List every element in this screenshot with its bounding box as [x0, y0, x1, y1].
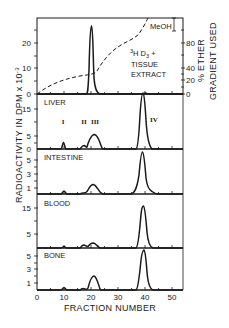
intestine-ytick-3: 3: [27, 170, 32, 179]
tissue-extract-curve: [37, 26, 183, 94]
peak-label-iii: III: [91, 118, 99, 126]
peak-label-iv: IV: [150, 116, 158, 124]
top-ytick-20: 20: [22, 39, 31, 48]
chart-figure: 0 10 20 0 20 40 80 5 15 0 5 3 1 15 5 5 3…: [0, 0, 229, 328]
top-y2tick-40: 40: [186, 64, 195, 73]
top-y2tick-0: 0: [186, 90, 191, 99]
xtick-50: 50: [168, 293, 177, 302]
blood-ytick-15: 15: [22, 204, 31, 213]
bone-ytick-5: 5: [27, 252, 32, 261]
xtick-20: 20: [87, 293, 96, 302]
y2-axis-title-ether: % ETHER: [196, 39, 206, 82]
top-ytick-0: 0: [27, 90, 32, 99]
panel-label-intestine: INTESTINE: [44, 153, 83, 162]
liver-ytick-5: 5: [27, 132, 32, 141]
y2-axis-title-group-2: GRADIENT USED: [208, 22, 218, 100]
top-ytick-10: 10: [22, 64, 31, 73]
x-axis-title: FRACTION NUMBER: [64, 303, 156, 313]
intestine-ytick-5: 5: [27, 156, 32, 165]
meoh-label: MeOH: [150, 22, 172, 31]
intestine-ytick-1: 1: [27, 184, 32, 193]
tissue-extract-line2: TISSUE: [131, 60, 158, 69]
top-y2tick-80: 80: [186, 39, 195, 48]
liver-ytick-0: 0: [27, 145, 32, 154]
peak-label-ii: II: [81, 118, 87, 126]
y-axis-title: RADIOACTIVITY IN DPM x 10-3: [14, 67, 24, 203]
xtick-0: 0: [35, 293, 40, 302]
panel-label-liver: LIVER: [44, 98, 66, 107]
blood-ytick-5: 5: [27, 230, 32, 239]
xtick-30: 30: [114, 293, 123, 302]
meoh-marker: [172, 18, 176, 31]
y2-axis-title-group-1: % ETHER: [196, 39, 206, 82]
top-y2tick-20: 20: [186, 76, 195, 85]
tissue-extract-title: 3H D3 +: [130, 48, 156, 59]
y2-axis-title-gradient: GRADIENT USED: [208, 22, 218, 100]
y-axis-title-group: RADIOACTIVITY IN DPM x 10-3: [14, 67, 24, 203]
xtick-40: 40: [141, 293, 150, 302]
peak-label-i: I: [62, 118, 65, 126]
panel-label-bone: BONE: [44, 251, 65, 260]
bone-ytick-3: 3: [27, 265, 32, 274]
xtick-10: 10: [60, 293, 69, 302]
panel-label-blood: BLOOD: [44, 199, 71, 208]
bone-ytick-1: 1: [27, 279, 32, 288]
blood-curve: [37, 206, 183, 248]
tissue-extract-line3: EXTRACT: [131, 70, 166, 79]
